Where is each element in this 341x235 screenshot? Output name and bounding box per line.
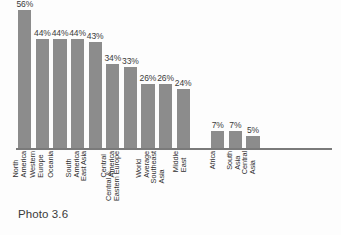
bar-slot: 7%: [227, 0, 245, 148]
bar[interactable]: [124, 67, 137, 148]
bar-series: 56%44%44%44%43%34%33%26%26%24%7%7%5%: [16, 0, 332, 148]
bar-slot: 44%: [51, 0, 69, 148]
bar-slot: 44%: [34, 0, 52, 148]
bar[interactable]: [36, 39, 49, 148]
bar-slot: 56%: [16, 0, 34, 148]
bar[interactable]: [106, 64, 119, 148]
plot-area: 56%44%44%44%43%34%33%26%26%24%7%7%5%: [16, 0, 332, 149]
bar[interactable]: [18, 10, 31, 148]
bar-value-label: 34%: [104, 53, 121, 63]
bar[interactable]: [141, 84, 154, 148]
bar[interactable]: [159, 84, 172, 148]
bar-slot: 34%: [104, 0, 122, 148]
bar[interactable]: [71, 39, 84, 148]
category-label: CentralAsia: [241, 151, 257, 174]
figure-container: 56%44%44%44%43%34%33%26%26%24%7%7%5% Nor…: [0, 0, 341, 235]
bar[interactable]: [89, 42, 102, 148]
bar-slot: 43%: [86, 0, 104, 148]
bar[interactable]: [177, 89, 190, 148]
bar-value-label: 44%: [52, 28, 69, 38]
bar-value-label: 7%: [212, 120, 224, 130]
x-axis-category-labels: NorthAmericaWesternEuropeOceaniaSouthAme…: [16, 151, 332, 207]
x-axis-line: [16, 148, 332, 150]
bar[interactable]: [229, 131, 242, 148]
bar-value-label: 44%: [69, 28, 86, 38]
bar-value-label: 44%: [34, 28, 51, 38]
category-label: Africa: [209, 151, 217, 169]
category-label: WesternEurope: [29, 151, 45, 178]
bar[interactable]: [53, 39, 66, 148]
bar-slot: 26%: [139, 0, 157, 148]
bar-slot: 26%: [157, 0, 175, 148]
bar-value-label: 26%: [157, 73, 174, 83]
bar-slot: 24%: [174, 0, 192, 148]
bar-value-label: 26%: [140, 73, 157, 83]
category-label-slot: MiddleEast: [174, 151, 192, 207]
bar-slot: 33%: [122, 0, 140, 148]
category-label: Oceania: [47, 151, 55, 178]
category-label: East Asia: [80, 151, 88, 181]
category-label: SoutheastAsia: [149, 151, 165, 183]
bar-value-label: 7%: [229, 120, 241, 130]
bar-slot: 5%: [244, 0, 262, 148]
bar-slot: 7%: [209, 0, 227, 148]
bar-slot: 44%: [69, 0, 87, 148]
bar-value-label: 43%: [87, 31, 104, 41]
figure-caption: Photo 3.6: [18, 208, 68, 220]
bar[interactable]: [211, 131, 224, 148]
bar-value-label: 5%: [247, 125, 259, 135]
bar[interactable]: [246, 136, 259, 148]
bar-value-label: 33%: [122, 56, 139, 66]
category-label: MiddleEast: [173, 151, 189, 172]
bar-value-label: 24%: [175, 78, 192, 88]
category-label-slot: CentralAsia: [244, 151, 262, 207]
bar-value-label: 56%: [16, 0, 33, 9]
category-label: NorthAmerica: [12, 151, 28, 177]
category-label: Central &Eastern Europe: [105, 151, 121, 201]
